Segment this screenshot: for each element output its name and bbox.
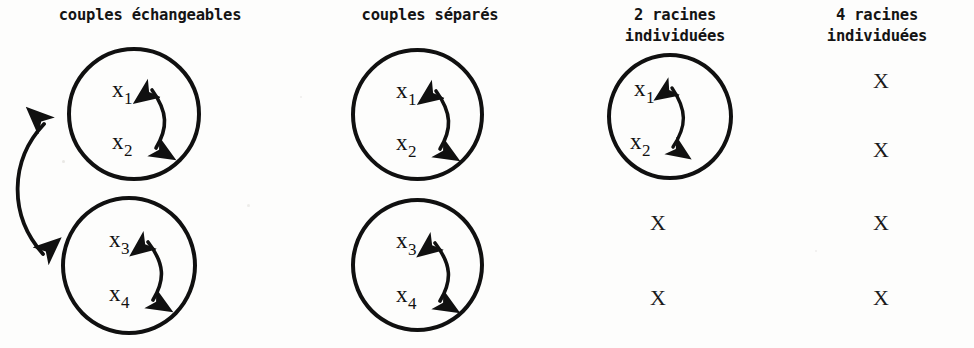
label-col2-x3: x3 [396,229,416,252]
x-mark-col4-row2: X [866,139,896,161]
label-col1-x3: x3 [109,228,129,251]
circle-col1-row1 [67,47,201,181]
x-mark-col3-row3: X [643,212,673,234]
figure-root: couples échangeables couples séparés 2 r… [0,0,974,348]
var-base: x [109,227,121,252]
label-col2-x4: x4 [396,283,416,306]
scan-speck [62,160,65,163]
label-col2-x2: x2 [396,131,416,154]
column-header-2-racines-individuees: 2 racines individuées [565,5,785,47]
var-sub: 2 [642,141,651,160]
scan-speck [815,250,817,252]
column-header-couples-separes: couples séparés [300,5,560,26]
var-base: x [634,76,646,101]
scan-speck [247,204,250,207]
var-base: x [109,281,121,306]
var-sub: 3 [408,240,417,259]
label-col1-x4: x4 [109,282,129,305]
circle-col2-row2 [351,198,484,332]
circle-col1-row2 [61,196,197,335]
var-sub: 2 [408,142,417,161]
column-header-4-racines-individuees: 4 racines individuées [780,5,974,47]
label-col1-x1: x1 [112,78,132,101]
var-base: x [396,282,408,307]
label-col3-x2: x2 [630,130,650,153]
var-sub: 4 [408,294,417,313]
var-sub: 1 [646,88,655,107]
var-sub: 1 [124,89,133,108]
var-sub: 4 [121,293,130,312]
var-sub: 3 [121,239,130,258]
between-circles-arrow-col1 [18,124,44,254]
var-sub: 1 [408,90,417,109]
var-base: x [112,129,124,154]
scan-speck [300,96,302,98]
circle-col2-row1 [351,48,484,181]
column-header-couples-echangeables: couples échangeables [0,5,300,26]
x-mark-col4-row1: X [866,70,896,92]
label-col3-x1: x1 [634,77,654,100]
x-mark-col4-row4: X [866,287,896,309]
var-base: x [396,130,408,155]
var-base: x [630,129,642,154]
label-col2-x1: x1 [396,79,416,102]
circle-col3-row1 [607,53,733,180]
x-mark-col3-row4: X [643,287,673,309]
var-base: x [396,228,408,253]
label-col1-x2: x2 [112,130,132,153]
x-mark-col4-row3: X [866,212,896,234]
var-base: x [396,78,408,103]
var-sub: 2 [124,141,133,160]
var-base: x [112,77,124,102]
